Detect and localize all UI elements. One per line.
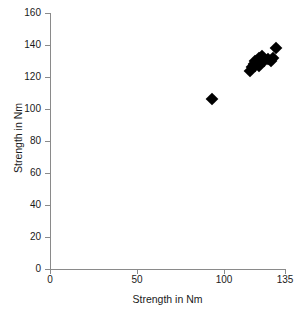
x-tick-label: 50	[117, 275, 157, 285]
y-tick-label-wrap: 20	[0, 232, 50, 242]
y-tick-label-wrap: 100	[0, 104, 50, 114]
x-tick-label: 0	[30, 275, 70, 285]
y-tick-label: 140	[15, 40, 41, 50]
x-axis-title: Strength in Nm	[50, 293, 285, 305]
y-axis-title: Strength in Nm	[12, 68, 24, 208]
y-tick-label-wrap: 160	[0, 8, 50, 18]
y-tick-label-wrap: 60	[0, 168, 50, 178]
y-tick-label: 0	[15, 264, 41, 274]
y-tick-label-wrap: 80	[0, 136, 50, 146]
x-tick-label: 100	[204, 275, 244, 285]
y-tick-label-wrap: 140	[0, 40, 50, 50]
x-tick-label: 135	[265, 275, 303, 285]
y-tick-label: 20	[15, 232, 41, 242]
scatter-chart: 020406080100120140160 050100135 Strength…	[0, 0, 303, 318]
y-tick-label-wrap: 120	[0, 72, 50, 82]
y-tick-label-wrap: 40	[0, 200, 50, 210]
y-tick-label: 160	[15, 8, 41, 18]
y-axis-line	[50, 13, 51, 270]
data-point	[206, 93, 219, 106]
y-tick-label-wrap: 0	[0, 264, 50, 274]
plot-area: 020406080100120140160 050100135	[0, 0, 303, 318]
x-axis-line	[50, 269, 285, 270]
